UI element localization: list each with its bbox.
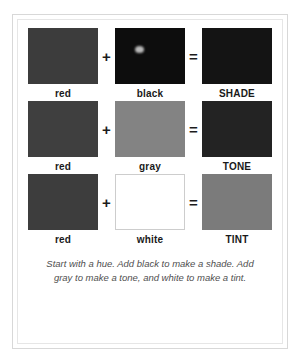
tint-row-modifier-swatch-cell: white: [115, 174, 185, 246]
swatch-shade: [202, 28, 272, 84]
operator-equals-icon: =: [185, 101, 202, 157]
swatch-red: [28, 174, 98, 230]
tint-row-result-swatch-cell: TINT: [202, 174, 272, 246]
swatch-label-tone: TONE: [223, 161, 251, 173]
figure-outer-frame: red + black = SHADE: [12, 14, 288, 349]
tone-row-modifier-swatch-cell: gray: [115, 101, 185, 173]
swatch-black: [115, 28, 185, 84]
swatch-label-shade: SHADE: [219, 88, 255, 100]
figure-caption: Start with a hue. Add black to make a sh…: [28, 257, 272, 285]
swatch-tone: [202, 101, 272, 157]
tint-row: red + white = TINT: [28, 174, 272, 247]
shade-row-modifier-swatch-cell: black: [115, 28, 185, 100]
operator-equals-icon: =: [185, 28, 202, 84]
swatch-label-gray: gray: [139, 161, 161, 173]
swatch-red: [28, 28, 98, 84]
swatch-label-white: white: [137, 234, 164, 246]
figure-inner-frame: red + black = SHADE: [17, 19, 283, 344]
swatch-label-red: red: [55, 88, 71, 100]
operator-plus-icon: +: [98, 101, 115, 157]
operator-plus-icon: +: [98, 174, 115, 230]
figure-content: red + black = SHADE: [18, 20, 282, 343]
tone-row-base-swatch-cell: red: [28, 101, 98, 173]
swatch-label-tint: TINT: [225, 234, 248, 246]
color-theory-figure: red + black = SHADE: [0, 0, 300, 361]
swatch-tint: [202, 174, 272, 230]
swatch-label-red: red: [55, 234, 71, 246]
tint-row-base-swatch-cell: red: [28, 174, 98, 246]
tone-row-result-swatch-cell: TONE: [202, 101, 272, 173]
tone-row: red + gray = TONE: [28, 101, 272, 174]
swatch-white: [115, 174, 185, 230]
shade-row: red + black = SHADE: [28, 28, 272, 101]
swatch-gray: [115, 101, 185, 157]
operator-plus-icon: +: [98, 28, 115, 84]
operator-equals-icon: =: [185, 174, 202, 230]
shade-row-result-swatch-cell: SHADE: [202, 28, 272, 100]
shade-row-base-swatch-cell: red: [28, 28, 98, 100]
highlight-blob-artifact: [135, 46, 144, 53]
swatch-red: [28, 101, 98, 157]
swatch-label-black: black: [137, 88, 164, 100]
swatch-label-red: red: [55, 161, 71, 173]
